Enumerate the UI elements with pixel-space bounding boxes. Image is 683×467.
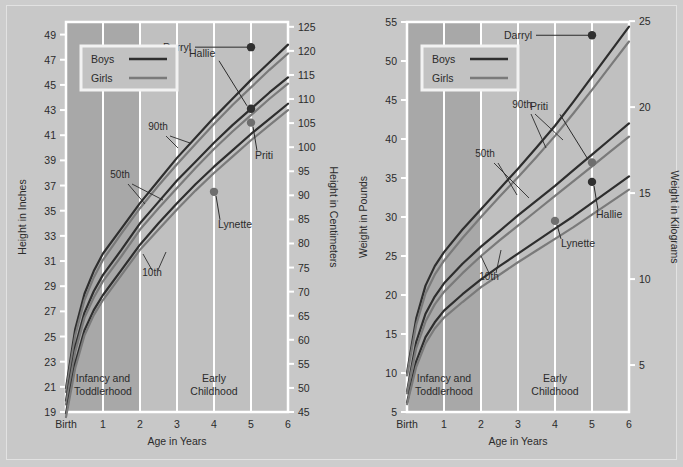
- data-point-label-priti: Priti: [530, 100, 548, 112]
- y-tick-label-right: 50: [298, 382, 310, 394]
- y-tick-label-right: 10: [639, 273, 651, 285]
- y-tick-label-right: 100: [298, 141, 316, 153]
- y-tick-label-left: 27: [44, 305, 56, 317]
- y-tick-label-right: 70: [298, 286, 310, 298]
- band-label: Infancy and: [417, 372, 471, 384]
- legend-label-boys: Boys: [91, 53, 114, 65]
- x-tick-label: 4: [211, 418, 217, 430]
- y-tick-label-right: 60: [298, 334, 310, 346]
- data-point-priti[interactable]: [588, 158, 596, 166]
- data-point-priti[interactable]: [247, 118, 255, 126]
- band-label: Infancy and: [76, 372, 130, 384]
- y-tick-label-left: 5: [391, 406, 397, 418]
- band-label: Childhood: [190, 385, 237, 397]
- data-point-darryl[interactable]: [247, 43, 255, 51]
- y-tick-label-left: 15: [385, 328, 397, 340]
- y-tick-label-left: 41: [44, 129, 56, 141]
- y-tick-label-left: 19: [44, 406, 56, 418]
- band-label: Childhood: [531, 385, 578, 397]
- x-tick-label: 3: [174, 418, 180, 430]
- x-tick-label: 2: [137, 418, 143, 430]
- data-point-hallie[interactable]: [247, 105, 255, 113]
- y-tick-label-left: 20: [385, 289, 397, 301]
- data-point-label-lynette: Lynette: [218, 218, 252, 230]
- y-tick-label-left: 47: [44, 54, 56, 66]
- y-tick-label-right: 5: [639, 359, 645, 371]
- percentile-label: 90th: [148, 121, 167, 132]
- y-tick-label-left: 25: [385, 250, 397, 262]
- band-label: Toddlerhood: [74, 385, 132, 397]
- x-tick-label: 6: [285, 418, 291, 430]
- legend: BoysGirls: [81, 46, 177, 90]
- y-tick-label-left: 25: [44, 331, 56, 343]
- y-tick-label-right: 125: [298, 21, 316, 33]
- data-point-label-hallie: Hallie: [596, 208, 622, 220]
- x-tick-label: 4: [552, 418, 558, 430]
- y-tick-label-right: 45: [298, 406, 310, 418]
- y-tick-label-right: 95: [298, 165, 310, 177]
- x-tick-label: Birth: [396, 418, 418, 430]
- y-tick-label-right: 115: [298, 69, 315, 81]
- y-axis-title-left: Weight in Pounds: [357, 176, 369, 258]
- y-tick-label-left: 49: [44, 29, 56, 41]
- y-tick-label-left: 50: [385, 55, 397, 67]
- data-point-lynette[interactable]: [551, 217, 559, 225]
- y-tick-label-left: 33: [44, 230, 56, 242]
- y-axis-title-right: Height in Centimeters: [328, 167, 340, 268]
- y-tick-label-right: 85: [298, 213, 310, 225]
- y-tick-label-left: 40: [385, 133, 397, 145]
- y-tick-label-left: 35: [385, 172, 397, 184]
- y-tick-label-left: 31: [44, 255, 56, 267]
- figure-root: 1921232527293133353739414345474945505560…: [0, 0, 683, 467]
- x-tick-label: 1: [441, 418, 447, 430]
- y-tick-label-left: 55: [385, 16, 397, 28]
- data-point-label-lynette: Lynette: [561, 237, 595, 249]
- y-tick-label-right: 55: [298, 358, 310, 370]
- legend: BoysGirls: [422, 46, 518, 90]
- y-axis-title-right: Weight in Kilograms: [669, 170, 681, 263]
- y-tick-label-left: 45: [44, 79, 56, 91]
- weight-chart-panel: 510152025303540455055510152025Birth12345…: [341, 0, 683, 467]
- y-tick-label-right: 90: [298, 189, 310, 201]
- band-label: Early: [543, 372, 568, 384]
- x-axis-title: Age in Years: [489, 435, 548, 447]
- data-point-label-darryl: Darryl: [504, 29, 532, 41]
- y-tick-label-right: 25: [639, 15, 651, 27]
- x-tick-label: 3: [515, 418, 521, 430]
- data-point-label-priti: Priti: [255, 149, 273, 161]
- y-tick-label-right: 15: [639, 187, 651, 199]
- percentile-label: 50th: [110, 169, 129, 180]
- y-tick-label-left: 23: [44, 356, 56, 368]
- y-tick-label-right: 75: [298, 262, 310, 274]
- legend-label-girls: Girls: [432, 72, 454, 84]
- percentile-label: 50th: [475, 148, 494, 159]
- y-tick-label-right: 120: [298, 45, 316, 57]
- y-axis-title-left: Height in Inches: [16, 179, 28, 254]
- x-axis-title: Age in Years: [148, 435, 207, 447]
- y-tick-label-left: 37: [44, 180, 56, 192]
- y-tick-label-left: 10: [385, 367, 397, 379]
- y-tick-label-right: 20: [639, 101, 651, 113]
- y-tick-label-left: 35: [44, 205, 56, 217]
- x-tick-label: 1: [100, 418, 106, 430]
- y-tick-label-right: 105: [298, 117, 316, 129]
- y-tick-label-right: 80: [298, 237, 310, 249]
- x-tick-label: 5: [589, 418, 595, 430]
- legend-label-girls: Girls: [91, 72, 113, 84]
- data-point-lynette[interactable]: [210, 188, 218, 196]
- data-point-label-hallie: Hallie: [189, 47, 215, 59]
- y-tick-label-right: 110: [298, 93, 315, 105]
- x-tick-label: 2: [478, 418, 484, 430]
- y-tick-label-left: 43: [44, 104, 56, 116]
- data-point-darryl[interactable]: [588, 31, 596, 39]
- y-tick-label-left: 30: [385, 211, 397, 223]
- x-tick-label: Birth: [55, 418, 77, 430]
- legend-label-boys: Boys: [432, 53, 455, 65]
- data-point-hallie[interactable]: [588, 178, 596, 186]
- x-tick-label: 6: [626, 418, 632, 430]
- y-tick-label-left: 39: [44, 154, 56, 166]
- y-tick-label-left: 21: [44, 381, 56, 393]
- y-tick-label-left: 45: [385, 94, 397, 106]
- band-label: Toddlerhood: [415, 385, 473, 397]
- height-chart-panel: 1921232527293133353739414345474945505560…: [0, 0, 342, 467]
